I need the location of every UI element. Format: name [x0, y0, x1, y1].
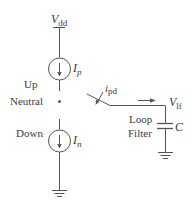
neutral-node-dot [58, 100, 61, 103]
capacitor-label: C [175, 120, 184, 134]
neutral-label: Neutral [10, 95, 43, 107]
loop-filter-label-line1: Loop [129, 113, 153, 125]
direction-arrowhead-icon [150, 98, 156, 102]
ipd-label: ipd [105, 82, 118, 96]
down-label: Down [16, 127, 43, 139]
up-label: Up [24, 78, 38, 90]
ground-icon-left [52, 191, 67, 197]
vlf-label: Vlf [169, 95, 182, 111]
loop-filter-label-line2: Filter [128, 127, 152, 139]
ground-icon-right [158, 153, 173, 159]
down-arrowhead-icon [57, 144, 61, 149]
up-arrowhead-icon [57, 72, 61, 77]
charge-pump-diagram: Vdd Ip Up Neutral Down In ipd Vlf Loop F… [0, 0, 193, 210]
in-label: In [72, 133, 82, 149]
ip-label: Ip [72, 61, 82, 77]
vdd-label: Vdd [51, 12, 68, 28]
capacitor-icon [157, 124, 173, 129]
